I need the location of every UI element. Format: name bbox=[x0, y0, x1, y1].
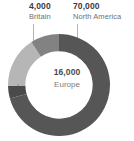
donut-chart: 4,000 Britain 70,000 North America 16,00… bbox=[0, 0, 134, 141]
callout-britain-label: Britain bbox=[29, 13, 51, 21]
center-label: 16,000 Europe bbox=[0, 68, 134, 89]
callout-north-america-label: North America bbox=[73, 13, 121, 21]
callout-britain-value: 4,000 bbox=[29, 2, 51, 12]
callout-north-america: 70,000 North America bbox=[73, 2, 121, 21]
callout-britain: 4,000 Britain bbox=[29, 2, 51, 21]
callout-north-america-value: 70,000 bbox=[73, 2, 121, 12]
center-name: Europe bbox=[0, 80, 134, 89]
center-value: 16,000 bbox=[0, 68, 134, 78]
